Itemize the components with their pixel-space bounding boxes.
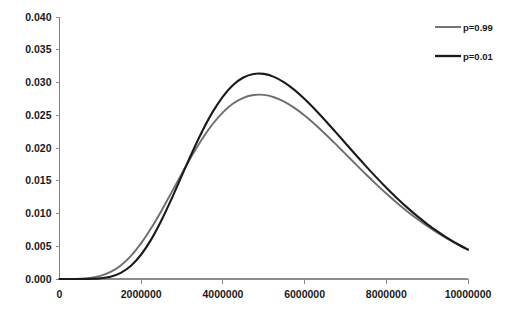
x-axis-tick-labels: 0200000040000006000000800000010000000 <box>57 288 492 300</box>
series-curves <box>60 73 469 279</box>
y-axis-group: 0.0000.0050.0100.0150.0200.0250.0300.035… <box>25 11 59 285</box>
x-tick-marks <box>141 279 468 284</box>
legend-label-p-0-01: p=0.01 <box>463 51 494 62</box>
series-line-p-0-99 <box>60 95 469 279</box>
y-tick-label: 0.030 <box>25 76 51 88</box>
y-tick-marks <box>56 17 60 279</box>
y-tick-label: 0.040 <box>25 11 51 23</box>
y-axis-tick-labels: 0.0000.0050.0100.0150.0200.0250.0300.035… <box>25 11 51 285</box>
x-tick-label: 0 <box>57 288 63 300</box>
x-tick-label: 10000000 <box>445 288 492 300</box>
y-tick-label: 0.005 <box>25 240 51 252</box>
x-tick-label: 8000000 <box>366 288 407 300</box>
y-tick-label: 0.015 <box>25 174 51 186</box>
x-axis-group: 0200000040000006000000800000010000000 <box>57 279 492 300</box>
chart-legend: p=0.99p=0.01 <box>435 22 494 62</box>
legend-label-p-0-99: p=0.99 <box>463 22 493 33</box>
y-tick-label: 0.020 <box>25 142 51 154</box>
x-tick-label: 4000000 <box>202 288 243 300</box>
chart-container: 0.0000.0050.0100.0150.0200.0250.0300.035… <box>0 0 510 314</box>
x-tick-label: 6000000 <box>284 288 325 300</box>
y-tick-label: 0.010 <box>25 207 51 219</box>
y-tick-label: 0.035 <box>25 43 51 55</box>
y-tick-label: 0.025 <box>25 109 51 121</box>
y-tick-label: 0.000 <box>25 273 51 285</box>
series-line-p-0-01 <box>60 73 469 279</box>
x-tick-label: 2000000 <box>121 288 162 300</box>
density-plot-svg: 0.0000.0050.0100.0150.0200.0250.0300.035… <box>0 0 510 314</box>
